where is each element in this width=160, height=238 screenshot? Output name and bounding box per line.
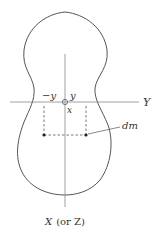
body-outline xyxy=(18,12,112,195)
diagram-canvas: −y y x Y dm X(or Z) xyxy=(0,0,160,238)
label-dm: dm xyxy=(122,120,138,131)
label-neg-y: −y xyxy=(42,90,56,101)
mass-dot-pos-y xyxy=(84,133,87,136)
label-x: x xyxy=(67,105,72,115)
mass-dot-neg-y xyxy=(42,133,45,136)
dm-leader-line xyxy=(88,127,120,134)
label-x-axis: X(or Z) xyxy=(44,216,85,227)
label-pos-y: y xyxy=(69,90,76,101)
label-y-axis: Y xyxy=(143,96,152,109)
